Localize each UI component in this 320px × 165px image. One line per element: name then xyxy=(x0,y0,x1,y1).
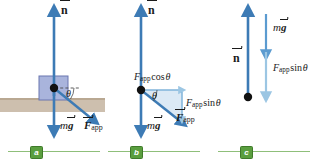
panel-badge-b: b xyxy=(130,146,143,159)
panel-rule-a-left xyxy=(8,151,30,152)
angle-arc-a xyxy=(71,88,75,99)
normal-force-label-b: n xyxy=(148,4,155,16)
panel-badge-a: a xyxy=(30,146,43,159)
panel-rule-a-right xyxy=(43,151,100,152)
physics-free-body-figure: n mg Fapp θ n mg Fapp θ Fapp cos θ Fapp … xyxy=(0,0,320,165)
center-dot-c xyxy=(244,93,252,101)
panel-rule-b-left xyxy=(108,151,130,152)
horizontal-component-label-b: Fapp cos θ xyxy=(134,72,170,83)
angle-label-a: θ xyxy=(66,89,71,99)
panel-rule-c-left xyxy=(218,151,240,152)
vertical-component-label-b: Fapp sin θ xyxy=(186,98,221,109)
panel-a-graphics xyxy=(0,14,105,128)
angle-label-b: θ xyxy=(152,91,157,101)
center-dot-a xyxy=(50,84,58,92)
weight-label-b: mg xyxy=(147,120,160,131)
panel-badge-c: c xyxy=(240,146,253,159)
applied-force-label-a: Fapp xyxy=(84,120,103,132)
panel-rule-b-right xyxy=(143,151,200,152)
vertical-component-label-c: Fapp sin θ xyxy=(273,63,308,74)
panel-rule-c-right xyxy=(253,151,310,152)
panel-c-graphics xyxy=(244,14,266,101)
center-dot-b xyxy=(137,86,145,94)
applied-force-label-b: Fapp xyxy=(176,112,195,124)
weight-label-c: mg xyxy=(273,22,286,33)
normal-force-label-a: n xyxy=(61,4,68,16)
weight-label-a: mg xyxy=(60,120,73,131)
normal-force-label-c: n xyxy=(233,52,240,64)
